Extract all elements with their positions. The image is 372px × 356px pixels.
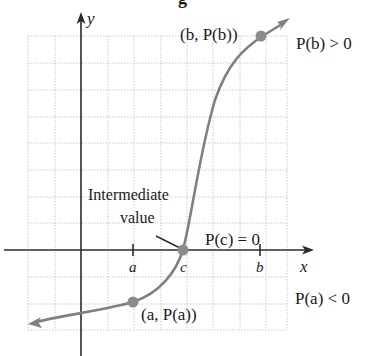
curve-right-arrow-icon [277, 18, 290, 30]
annotation-pa: P(a) < 0 [295, 289, 350, 308]
curve-left-arrow-icon [28, 317, 42, 328]
x-axis-label: x [299, 257, 308, 276]
label-b-point: (b, P(b)) [180, 25, 238, 44]
ivt-diagram: g y x a c b [0, 0, 372, 356]
intermediate-label-line2: value [120, 209, 155, 226]
annotation-pb: P(b) > 0 [296, 34, 352, 53]
title-fragment: g [178, 0, 187, 8]
tick-label-b: b [256, 259, 264, 275]
grid [28, 36, 287, 330]
tick-label-a: a [129, 259, 137, 275]
annotation-pc: P(c) = 0 [205, 230, 260, 249]
label-a-point: (a, P(a)) [141, 305, 197, 324]
intermediate-value-leader [156, 236, 180, 248]
point-a [128, 297, 139, 308]
intermediate-label-line1: Intermediate [88, 186, 169, 203]
point-b [256, 31, 267, 42]
y-axis-label: y [85, 9, 95, 28]
tick-label-c: c [180, 259, 187, 275]
point-c [178, 245, 189, 256]
